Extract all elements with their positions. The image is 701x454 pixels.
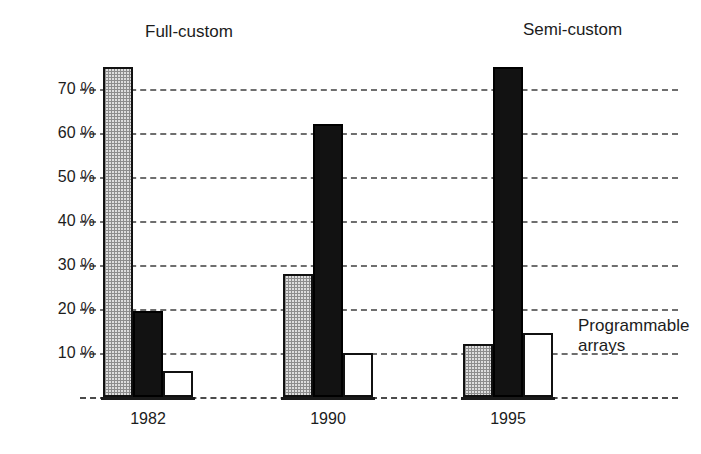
bar-1982-semi-custom	[133, 311, 163, 397]
y-tick-label-10: 10 %	[23, 344, 95, 362]
y-axis-labels: 10 %20 %30 %40 %50 %60 %70 %	[0, 0, 95, 454]
bar-1995-semi-custom	[493, 67, 523, 397]
bar-1982-full-custom	[103, 67, 133, 397]
y-tick-label-20: 20 %	[23, 300, 95, 318]
series-label-semi-custom: Semi-custom	[523, 20, 622, 40]
baseline-segment-1982	[101, 397, 195, 400]
bar-1995-programmable	[523, 333, 553, 397]
y-tick-label-30: 30 %	[23, 256, 95, 274]
y-tick-label-50: 50 %	[23, 168, 95, 186]
y-tick-label-40: 40 %	[23, 212, 95, 230]
series-label-full-custom: Full-custom	[145, 22, 233, 42]
x-tick-label-1982: 1982	[130, 410, 166, 428]
series-label-programmable-arrays: Programmable arrays	[578, 316, 690, 356]
bar-1990-programmable	[343, 353, 373, 397]
baseline-segment-1990	[281, 397, 375, 400]
bar-1990-full-custom	[283, 274, 313, 397]
bar-1990-semi-custom	[313, 124, 343, 397]
y-tick-label-70: 70 %	[23, 80, 95, 98]
baseline-segment-1995	[461, 397, 555, 400]
y-tick-label-60: 60 %	[23, 124, 95, 142]
x-tick-label-1990: 1990	[310, 410, 346, 428]
bar-1995-full-custom	[463, 344, 493, 397]
x-tick-label-1995: 1995	[490, 410, 526, 428]
bar-chart: 10 %20 %30 %40 %50 %60 %70 % 19821990199…	[0, 0, 701, 454]
bar-1982-programmable	[163, 371, 193, 397]
